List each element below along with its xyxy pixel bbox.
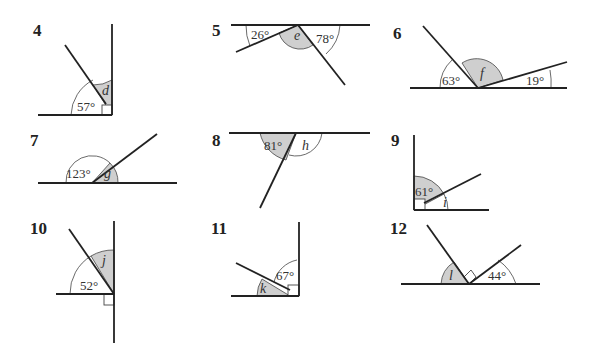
angle-label-78: 78°	[316, 31, 334, 46]
angle-label: 61°	[415, 184, 433, 199]
unknown-label: g	[104, 166, 111, 181]
problem-9: 9 61° i	[391, 131, 489, 210]
angle-problems-sheet: 4 57° d 5 26° 78° e 6 63° 19° f 7 123° g…	[0, 0, 606, 343]
right-angle-marker	[414, 199, 425, 210]
problem-number: 11	[211, 219, 227, 238]
problem-7: 7 123° g	[30, 131, 177, 183]
unknown-label: d	[102, 83, 110, 98]
angle-label-19: 19°	[526, 73, 544, 88]
problem-number: 4	[33, 21, 42, 40]
angle-arc-26	[246, 25, 250, 46]
angle-label: 81°	[264, 138, 282, 153]
problem-10: 10 52° j	[30, 219, 114, 343]
problem-number: 5	[212, 21, 221, 40]
right-angle-marker	[102, 105, 112, 115]
problem-6: 6 63° 19° f	[393, 24, 567, 88]
problem-4: 4 57° d	[33, 21, 112, 115]
unknown-label: e	[294, 28, 300, 43]
unknown-label: k	[260, 281, 267, 296]
angle-label-63: 63°	[442, 73, 460, 88]
unknown-label: h	[302, 138, 309, 153]
angle-label-26: 26°	[251, 27, 269, 42]
angle-label: 52°	[80, 278, 98, 293]
problem-number: 7	[30, 131, 39, 150]
angle-label: 67°	[276, 268, 294, 283]
problem-number: 12	[390, 219, 407, 238]
problem-number: 8	[212, 131, 221, 150]
unknown-label: i	[443, 195, 447, 210]
problem-8: 8 81° h	[212, 131, 370, 208]
unknown-label: l	[449, 268, 453, 283]
problem-number: 10	[30, 219, 47, 238]
angle-label: 57°	[77, 99, 95, 114]
angle-label: 123°	[66, 166, 91, 181]
problem-number: 6	[393, 24, 402, 43]
problem-11: 11 67° k	[211, 219, 299, 296]
angle-label: 44°	[488, 268, 506, 283]
problem-number: 9	[391, 131, 400, 150]
angle-arc-19	[550, 70, 551, 88]
problem-5: 5 26° 78° e	[212, 21, 370, 85]
right-angle-marker	[104, 294, 114, 305]
problem-12: 12 44° l	[390, 219, 540, 284]
